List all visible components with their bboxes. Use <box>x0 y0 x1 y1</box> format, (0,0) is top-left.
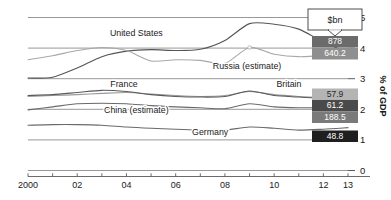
x-axis-label-02: 02 <box>72 180 82 190</box>
x-axis-label-12: 12 <box>318 180 328 190</box>
series-annotation-france: France <box>110 79 137 89</box>
y-axis-label-2: 2 <box>360 104 365 115</box>
russia-data-marker-2009 <box>248 46 251 49</box>
x-axis-label-06: 06 <box>171 180 181 190</box>
series-line-germany <box>28 125 348 131</box>
x-axis-label-10: 10 <box>269 180 279 190</box>
unit-callout-group: $bn <box>308 9 362 36</box>
gridlines-group <box>28 18 355 171</box>
series-lines-group <box>28 23 348 131</box>
value-badge-label-united-states: 878 <box>328 36 342 46</box>
series-line-france <box>28 90 348 100</box>
value-badges-group: 878640.257.961.2188.548.8 <box>312 36 358 142</box>
series-line-russia-estimate <box>28 47 348 63</box>
y-axis-ticks-group: 012345 <box>360 12 365 176</box>
series-annotation-russia-estimate: Russia (estimate) <box>213 61 282 71</box>
value-badge-label-china-estimate: 188.5 <box>324 112 346 122</box>
y-axis-label-0: 0 <box>360 165 365 176</box>
x-axis-label-2000: 2000 <box>18 180 38 190</box>
series-annotation-germany: Germany <box>192 127 229 137</box>
y-axis-title: % of GDP <box>378 75 388 116</box>
y-axis-title-group: % of GDP <box>378 75 388 116</box>
series-annotation-united-states: United States <box>110 28 163 38</box>
line-chart-svg: 200002040608101213 012345 United StatesU… <box>0 0 391 200</box>
x-axis-label-04: 04 <box>121 180 131 190</box>
unit-callout-pointer <box>328 30 342 36</box>
y-axis-label-4: 4 <box>360 43 365 54</box>
series-annotation-china-estimate: China (estimate) <box>104 105 169 115</box>
y-axis-label-3: 3 <box>360 73 365 84</box>
y-axis-label-1: 1 <box>360 134 365 145</box>
series-annotation-britain: Britain <box>276 79 301 89</box>
x-axis-label-08: 08 <box>220 180 230 190</box>
chart-container: 200002040608101213 012345 United StatesU… <box>0 0 391 200</box>
x-axis-label-13: 13 <box>343 180 353 190</box>
value-badge-label-germany: 48.8 <box>327 131 344 141</box>
unit-callout-label: $bn <box>327 15 342 25</box>
value-badge-label-france: 61.2 <box>327 100 344 110</box>
series-annotations-group: United StatesUnited StatesRussia (estima… <box>104 28 301 136</box>
x-axis-group: 200002040608101213 <box>18 173 370 190</box>
value-badge-label-britain: 57.9 <box>327 89 344 99</box>
value-badge-label-russia-estimate: 640.2 <box>324 48 346 58</box>
